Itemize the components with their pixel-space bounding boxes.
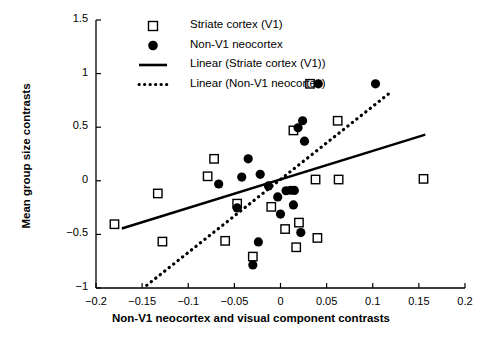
point-nonv1-neocortex bbox=[237, 172, 246, 181]
point-striate-v1 bbox=[154, 189, 162, 197]
legend-label: Linear (Non-V1 neocortex) bbox=[190, 77, 326, 89]
y-tick-label: −1 bbox=[38, 280, 88, 292]
point-nonv1-neocortex bbox=[256, 170, 265, 179]
point-nonv1-neocortex bbox=[264, 181, 273, 190]
point-nonv1-neocortex bbox=[248, 260, 257, 269]
legend-marker-open-square bbox=[149, 22, 158, 31]
y-tick-label: 0.5 bbox=[38, 119, 88, 131]
point-nonv1-neocortex bbox=[276, 209, 285, 218]
point-striate-v1 bbox=[158, 237, 166, 245]
point-striate-v1 bbox=[203, 172, 211, 180]
legend-label: Striate cortex (V1) bbox=[190, 18, 283, 30]
point-striate-v1 bbox=[313, 234, 321, 242]
point-nonv1-neocortex bbox=[233, 203, 242, 212]
point-striate-v1 bbox=[249, 252, 257, 260]
point-nonv1-neocortex bbox=[289, 200, 298, 209]
legend-marker-filled-circle bbox=[148, 41, 158, 51]
y-tick-label: −0.5 bbox=[38, 226, 88, 238]
x-tick-label: 0.2 bbox=[435, 295, 495, 307]
trendlines bbox=[122, 94, 426, 285]
point-striate-v1 bbox=[295, 218, 303, 226]
legend-symbols bbox=[139, 22, 167, 85]
point-nonv1-neocortex bbox=[296, 228, 305, 237]
y-axis-label: Mean group size contrasts bbox=[20, 46, 32, 266]
point-nonv1-neocortex bbox=[371, 79, 380, 88]
point-striate-v1 bbox=[334, 175, 342, 183]
point-striate-v1 bbox=[419, 175, 427, 183]
point-nonv1-neocortex bbox=[244, 154, 253, 163]
point-nonv1-neocortex bbox=[273, 192, 282, 201]
point-nonv1-neocortex bbox=[254, 237, 263, 246]
point-striate-v1 bbox=[292, 243, 300, 251]
y-tick-label: 1.5 bbox=[38, 12, 88, 24]
data-points bbox=[110, 79, 427, 269]
y-tick-label: 0 bbox=[38, 173, 88, 185]
legend-label: Linear (Striate cortex (V1)) bbox=[190, 57, 326, 69]
trendline-v1 bbox=[122, 135, 426, 229]
point-striate-v1 bbox=[210, 155, 218, 163]
point-nonv1-neocortex bbox=[300, 137, 309, 146]
point-nonv1-neocortex bbox=[214, 179, 223, 188]
point-nonv1-neocortex bbox=[298, 116, 307, 125]
point-nonv1-neocortex bbox=[290, 186, 299, 195]
point-striate-v1 bbox=[311, 175, 319, 183]
point-striate-v1 bbox=[110, 220, 118, 228]
point-striate-v1 bbox=[333, 117, 341, 125]
y-tick-label: 1 bbox=[38, 66, 88, 78]
point-striate-v1 bbox=[221, 237, 229, 245]
legend-label: Non-V1 neocortex bbox=[190, 38, 283, 50]
x-axis-label: Non-V1 neocortex and visual component co… bbox=[0, 312, 502, 324]
point-striate-v1 bbox=[281, 225, 289, 233]
point-striate-v1 bbox=[267, 203, 275, 211]
